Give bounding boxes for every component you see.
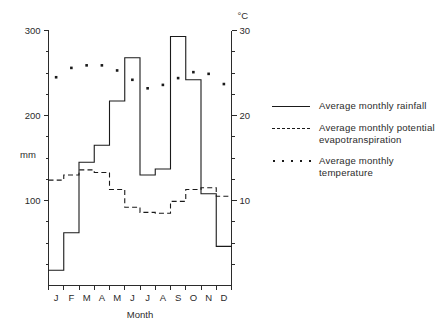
x-tick-label-month: A — [99, 292, 106, 303]
evapotranspiration-step-line — [49, 170, 232, 213]
legend-item-rainfall: Average monthly rainfall — [272, 100, 438, 112]
climate-chart-figure: 100200300102030JFMAMJJASONDmm°CMonth Ave… — [0, 0, 440, 319]
solid-line-icon — [272, 100, 312, 112]
chart-legend: Average monthly rainfall Average monthly… — [272, 100, 438, 188]
temperature-point — [177, 77, 180, 80]
axis-labels-group: 100200300102030JFMAMJJASONDmm°CMonth — [20, 10, 250, 319]
x-tick-label-month: J — [145, 292, 150, 303]
y2-tick-label: 20 — [240, 110, 251, 121]
x-tick-label-month: S — [175, 292, 181, 303]
y-tick-label: 100 — [25, 195, 41, 206]
x-tick-label-month: J — [54, 292, 59, 303]
temperature-point — [101, 64, 104, 67]
legend-label-rainfall: Average monthly rainfall — [319, 100, 427, 112]
y-tick-label: 300 — [25, 25, 41, 36]
y-tick-label: 200 — [25, 110, 41, 121]
y2-tick-label: 30 — [240, 25, 251, 36]
dotted-line-icon — [272, 155, 312, 167]
x-tick-label-month: M — [83, 292, 91, 303]
rainfall-step-line — [49, 36, 232, 270]
temperature-point — [162, 84, 165, 87]
temperature-point — [116, 69, 119, 72]
legend-item-evapotranspiration: Average monthly potential evapotranspira… — [272, 122, 438, 145]
x-tick-label-month: J — [130, 292, 135, 303]
temperature-point — [85, 64, 88, 67]
y-axis-title: mm — [20, 149, 36, 160]
x-axis-title: Month — [127, 309, 153, 319]
data-series-group — [49, 36, 232, 270]
temperature-point — [207, 73, 210, 76]
x-tick-label-month: F — [68, 292, 74, 303]
y2-axis-title: °C — [238, 10, 249, 21]
temperature-point — [131, 79, 134, 82]
x-tick-label-month: N — [205, 292, 212, 303]
x-tick-label-month: A — [160, 292, 167, 303]
temperature-point — [55, 76, 58, 79]
temperature-point — [70, 67, 73, 70]
x-tick-label-month: M — [113, 292, 121, 303]
legend-label-evapotranspiration: Average monthly potential evapotranspira… — [319, 122, 438, 145]
x-tick-label-month: O — [190, 292, 197, 303]
legend-label-temperature: Average monthly temperature — [319, 155, 438, 178]
legend-item-temperature: Average monthly temperature — [272, 155, 438, 178]
y2-tick-label: 10 — [240, 195, 251, 206]
temperature-point — [223, 83, 226, 86]
dashed-line-icon — [272, 122, 312, 134]
temperature-point — [192, 71, 195, 74]
x-tick-label-month: D — [220, 292, 227, 303]
temperature-point — [146, 87, 149, 90]
